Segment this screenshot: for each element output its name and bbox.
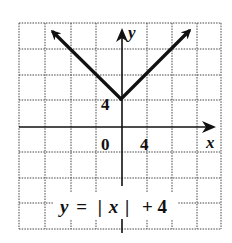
graph-figure: y x 4 0 4 y = | x | + 4	[0, 0, 232, 243]
axes	[19, 32, 212, 186]
function-graph	[53, 31, 189, 99]
x-tick-label: 4	[140, 135, 149, 154]
left-branch	[53, 32, 121, 99]
origin-label: 0	[101, 135, 110, 154]
x-axis-label: x	[205, 133, 215, 152]
y-tick-label: 4	[101, 95, 110, 114]
y-axis-label: y	[126, 23, 136, 42]
